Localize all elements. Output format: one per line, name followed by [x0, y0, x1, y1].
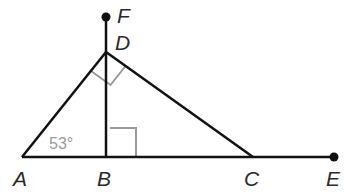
label-a: A — [11, 167, 27, 190]
geometry-diagram: 53° A B C E D F — [0, 0, 350, 196]
label-c: C — [244, 167, 260, 190]
segment-dc — [106, 52, 253, 157]
label-d: D — [115, 31, 130, 54]
right-angle-marker-b — [110, 128, 136, 157]
point-e-dot — [330, 153, 339, 162]
angle-a-label: 53° — [49, 135, 73, 152]
label-e: E — [326, 167, 341, 190]
label-b: B — [97, 167, 111, 190]
right-angle-marker-d — [91, 66, 126, 85]
point-f-dot — [102, 13, 111, 22]
label-f: F — [117, 4, 131, 27]
